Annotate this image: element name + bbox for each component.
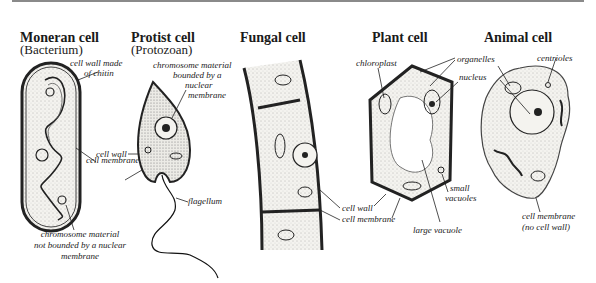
label-chromosome-unbound-line3: membrane	[55, 251, 105, 262]
label-fungal-cell-wall: cell wall	[342, 203, 373, 214]
fungal-cell-drawing	[244, 60, 340, 250]
protist-cell-drawing	[125, 82, 218, 278]
label-chromosome-unbound-line2: not bounded by a nuclear	[25, 240, 135, 251]
moneran-cell-drawing	[22, 63, 98, 231]
label-flagellum: flagellum	[188, 196, 222, 207]
animal-cell-drawing	[481, 58, 569, 212]
fungal-cell-title: Fungal cell	[240, 30, 306, 45]
protist-cell-subtitle: (Protozoan)	[131, 43, 192, 57]
label-small-vacuoles-line2: vacuoles	[445, 193, 477, 204]
animal-cell-title: Animal cell	[484, 30, 552, 45]
label-animal-cell-membrane-line1: cell membrane	[522, 211, 575, 222]
moneran-cell-subtitle: (Bacterium)	[20, 43, 83, 57]
label-fungal-cell-membrane: cell membrane	[342, 214, 395, 225]
label-chromosome-bound-line4: membrane	[188, 90, 226, 101]
label-large-vacuole: large vacuole	[413, 225, 462, 236]
label-chromosome-unbound-line1: chromosome material	[40, 229, 120, 240]
label-chloroplast: chloroplast	[356, 58, 397, 69]
plant-cell-title: Plant cell	[372, 30, 428, 45]
label-organelles: organelles	[457, 54, 495, 65]
label-animal-cell-membrane-line2: (no cell wall)	[522, 222, 570, 233]
label-centrioles: centrioles	[537, 53, 573, 64]
label-cell-wall-chitin-line2: of chitin	[84, 68, 114, 79]
label-protist-cell-membrane: cell membrane	[86, 155, 139, 166]
label-nucleus: nucleus	[459, 72, 487, 83]
